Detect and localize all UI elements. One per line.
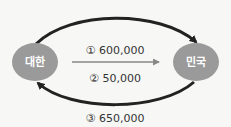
flow-1-label: ① 600,000 (86, 44, 145, 57)
flow-2-label: ② 50,000 (89, 72, 141, 85)
top-arc-arrow (36, 18, 196, 44)
node-right-label: 민국 (186, 55, 206, 69)
bottom-arc-arrow (38, 82, 194, 105)
flow-diagram: 대한 민국 ① 600,000 ② 50,000 ③ 650,000 (0, 0, 231, 127)
flow-3-label: ③ 650,000 (86, 112, 145, 125)
node-left-label: 대한 (25, 55, 45, 69)
